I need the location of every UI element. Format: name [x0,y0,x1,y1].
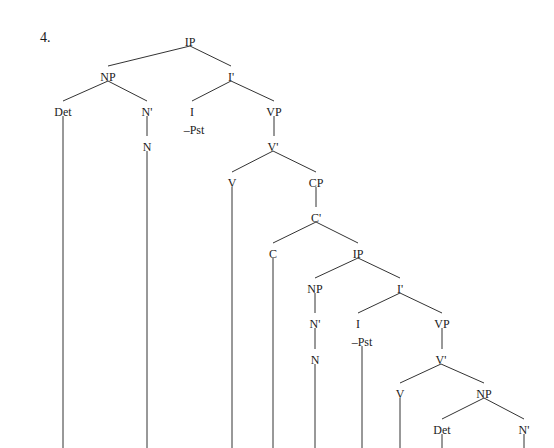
tree-edge [231,81,274,101]
tree-edge [273,222,316,243]
tree-node-ibar1: I' [228,70,234,84]
tree-node-i1: I [190,105,194,119]
syntax-tree: 4. IPNPI'DetN'I–PstVPNV'VCPC'CIPNPI'N'I–… [0,0,554,448]
tree-node-c1: C [269,247,277,261]
tree-edges [63,46,524,448]
tree-edge [442,398,484,419]
tree-edge [441,364,484,383]
tree-edge [358,258,400,278]
tree-nodes: IPNPI'DetN'I–PstVPNV'VCPC'CIPNPI'N'I–Pst… [54,35,529,437]
tree-edge [192,81,231,101]
tree-node-i2: I [356,317,360,331]
tree-edge [273,151,316,172]
tree-edge [232,151,273,172]
tree-node-vp1: VP [266,105,282,119]
tree-edge [108,81,147,101]
tree-node-n2: N [311,353,320,367]
tree-node-np2: NP [307,282,323,296]
tree-edge [400,293,442,313]
tree-node-vbar2: V' [436,353,447,367]
tree-node-ip1: IP [185,35,196,49]
tree-node-ip2: IP [353,247,364,261]
tree-node-v2: V [396,387,405,401]
example-number: 4. [40,30,51,45]
tree-edge [358,293,400,313]
tree-node-np3: NP [476,387,492,401]
tree-node-nbar2: N' [310,317,321,331]
tree-edge [484,398,524,419]
tree-node-i2f: –Pst [351,335,373,349]
tree-edge [315,258,358,278]
tree-node-cbar1: C' [311,211,321,225]
tree-node-v1: V [228,176,237,190]
tree-edge [316,222,358,243]
tree-node-nbar3: N' [519,423,530,437]
tree-node-cp1: CP [309,176,324,190]
tree-node-det1: Det [54,105,72,119]
tree-node-ibar2: I' [397,282,403,296]
tree-node-i1f: –Pst [183,123,205,137]
tree-node-np1: NP [100,70,116,84]
tree-node-vp2: VP [434,317,450,331]
tree-node-n1: N [143,140,152,154]
tree-edge [63,81,108,101]
tree-edge [108,46,190,66]
tree-node-det2: Det [433,423,451,437]
tree-node-vbar1: V' [268,140,279,154]
tree-node-nbar1: N' [142,105,153,119]
tree-edge [190,46,231,66]
